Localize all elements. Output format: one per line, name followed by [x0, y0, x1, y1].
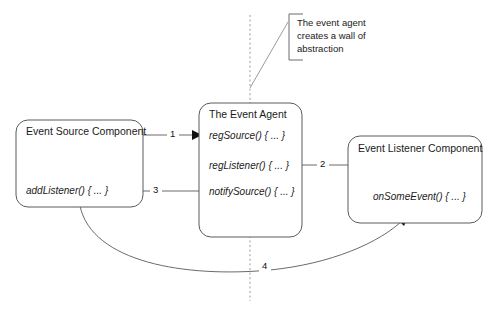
event-listener-on-some-event-method: onSomeEvent() { ... } [373, 191, 466, 202]
arrow-3-label: 3 [153, 184, 158, 195]
the-event-agent-reg-listener-method: regListener() { ... } [209, 160, 290, 171]
arrow-1-group: 1 [143, 127, 202, 140]
diagram-svg: The event agent creates a wall of abstra… [0, 0, 496, 316]
callout-line-3: abstraction [297, 43, 343, 54]
event-listener-component-title: Event Listener Component [358, 142, 482, 154]
the-event-agent-title: The Event Agent [209, 108, 287, 120]
box-event-source-component[interactable]: Event Source Component addListener() { .… [16, 120, 146, 207]
arrow-4-label: 4 [262, 260, 267, 271]
callout-line-2: creates a wall of [297, 30, 366, 41]
arrow-2-label: 2 [320, 158, 325, 169]
the-event-agent-notify-source-method: notifySource() { ... } [209, 186, 295, 197]
event-source-component-title: Event Source Component [26, 125, 146, 137]
event-source-add-listener-method: addListener() { ... } [26, 185, 109, 196]
arrow-1-label: 1 [170, 128, 175, 139]
callout-line-1: The event agent [297, 17, 366, 28]
the-event-agent-reg-source-method: regSource() { ... } [209, 130, 286, 141]
box-event-listener-component[interactable]: Event Listener Component onSomeEvent() {… [348, 136, 482, 223]
callout-leader-line [250, 22, 288, 88]
diagram-canvas: The event agent creates a wall of abstra… [0, 0, 496, 316]
abstraction-wall-callout: The event agent creates a wall of abstra… [250, 14, 366, 88]
box-the-event-agent[interactable]: The Event Agent regSource() { ... } regL… [199, 103, 302, 237]
